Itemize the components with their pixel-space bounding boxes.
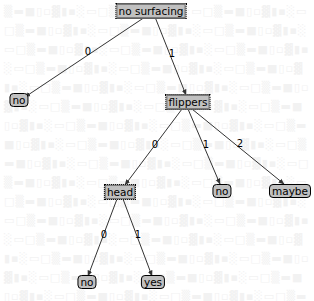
leaf-node-no: no (212, 184, 231, 198)
edge-label-flippers-2: 2 (237, 139, 243, 149)
decision-node-no-surfacing: no surfacing (116, 3, 187, 19)
edge-root-to-no (25, 17, 145, 97)
decision-node-head: head (104, 184, 136, 200)
leaf-node-no: no (9, 93, 28, 107)
edge-label-root-1: 1 (169, 49, 175, 59)
edge-label-flippers-1: 1 (203, 140, 209, 150)
edge-label-head-0: 0 (101, 230, 107, 240)
leaf-node-maybe: maybe (269, 184, 311, 198)
edge-label-root-0: 0 (85, 47, 91, 57)
leaf-node-yes: yes (141, 275, 165, 289)
decision-tree-canvas: ▒▬■▯▫▓▮▪░▭□▒▬■▯▫▓▮▪░▭□▒▬■▯▫▓▮▪░▭□▒▬■▯▫▓▮… (0, 0, 314, 301)
edge-label-head-1: 1 (135, 230, 141, 240)
edge-label-flippers-0: 0 (152, 140, 158, 150)
decision-node-flippers: flippers (165, 94, 210, 110)
leaf-node-no: no (77, 275, 96, 289)
tree-edges (0, 0, 314, 301)
